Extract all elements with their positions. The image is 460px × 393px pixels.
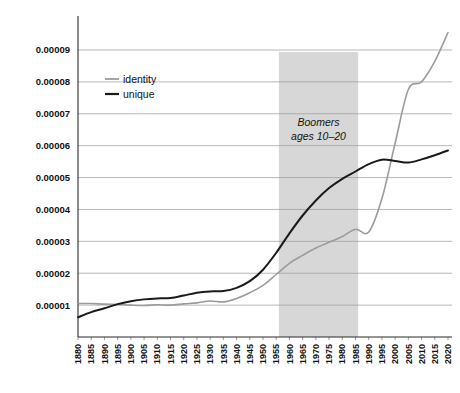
x-tick-label: 1980 — [337, 344, 347, 364]
x-tick-label: 1990 — [364, 344, 374, 364]
x-tick-label: 2020 — [443, 344, 453, 364]
x-tick-label: 1915 — [166, 344, 176, 364]
legend-label-identity: identity — [123, 73, 157, 85]
x-tick-label: 1910 — [152, 344, 162, 364]
x-tick-label: 2010 — [417, 344, 427, 364]
x-tick-label: 1920 — [179, 344, 189, 364]
legend-label-unique: unique — [123, 88, 155, 100]
y-tick-label: 0.00009 — [36, 44, 70, 55]
y-tick-label: 0.00004 — [36, 204, 71, 215]
x-tick-label: 2000 — [390, 344, 400, 364]
boomers-highlight-band — [279, 52, 358, 337]
x-axis-tick-labels: 1880188518901895190019051910191519201925… — [73, 344, 453, 364]
y-axis-tick-labels: 0.000010.000020.000030.000040.000050.000… — [36, 44, 71, 310]
x-tick-label: 2005 — [404, 344, 414, 364]
x-tick-label: 1930 — [205, 344, 215, 364]
chart-container: 0.000010.000020.000030.000040.000050.000… — [0, 0, 460, 393]
x-tick-label: 1940 — [232, 344, 242, 364]
x-tick-label: 1890 — [100, 344, 110, 364]
x-tick-label: 1960 — [285, 344, 295, 364]
annotation-line-2: ages 10–20 — [291, 130, 346, 142]
x-tick-label: 1945 — [245, 344, 255, 364]
x-tick-label: 2015 — [430, 344, 440, 364]
x-tick-label: 1925 — [192, 344, 202, 364]
x-tick-label: 1900 — [126, 344, 136, 364]
x-tick-label: 1950 — [258, 344, 268, 364]
x-tick-label: 1975 — [324, 344, 334, 364]
x-tick-label: 1880 — [73, 344, 83, 364]
x-tick-label: 1970 — [311, 344, 321, 364]
y-tick-label: 0.00003 — [36, 236, 70, 247]
x-tick-label: 1935 — [219, 344, 229, 364]
x-tick-label: 1895 — [113, 344, 123, 364]
annotation-line-1: Boomers — [297, 116, 340, 128]
x-tick-label: 1885 — [86, 344, 96, 364]
y-tick-label: 0.00001 — [36, 300, 71, 311]
y-tick-label: 0.00007 — [36, 108, 70, 119]
x-tick-label: 1905 — [139, 344, 149, 364]
legend: identity unique — [105, 73, 157, 100]
shaded-band-group — [279, 52, 358, 337]
x-tick-label: 1955 — [271, 344, 281, 364]
y-tick-label: 0.00008 — [36, 76, 70, 87]
x-tick-label: 1995 — [377, 344, 387, 364]
y-tick-label: 0.00006 — [36, 140, 70, 151]
x-tick-label: 1985 — [351, 344, 361, 364]
series-line-unique — [78, 150, 448, 317]
line-chart: 0.000010.000020.000030.000040.000050.000… — [0, 0, 460, 393]
x-tick-label: 1965 — [298, 344, 308, 364]
y-tick-label: 0.00005 — [36, 172, 71, 183]
y-tick-label: 0.00002 — [36, 268, 70, 279]
